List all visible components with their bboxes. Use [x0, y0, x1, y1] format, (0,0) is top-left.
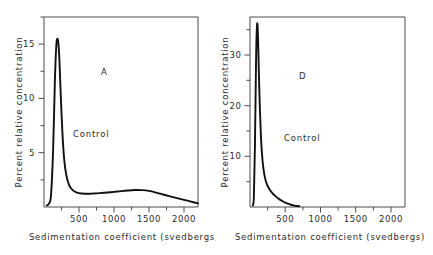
- y-axis-title-a: Percent relative concentration: [14, 37, 24, 188]
- figure-container: 5 10 15 500 1000 1500 2000 A: [0, 0, 433, 255]
- y-tick-label: 5: [29, 148, 35, 158]
- chart-panel-d: 10 20 30 500 1000 1500 2000 D: [217, 0, 433, 255]
- y-axis-title-d: Percent relative concentration: [220, 37, 230, 188]
- y-tick-label: 20: [229, 101, 241, 111]
- chart-panel-a: 5 10 15 500 1000 1500 2000 A: [0, 0, 216, 255]
- y-axis-ticks-d: [245, 30, 251, 182]
- x-tick-label: 1500: [137, 214, 161, 224]
- x-axis-title-a: Sedimentation coefficient (svedbergs): [29, 232, 216, 242]
- data-curve-control-a: [47, 39, 198, 206]
- plot-frame-d: [250, 17, 405, 207]
- x-tick-label: 500: [276, 214, 294, 224]
- panel-letter-a: A: [101, 67, 107, 77]
- x-axis-ticks-d: [268, 207, 391, 213]
- y-tick-label: 10: [23, 93, 35, 103]
- y-axis-ticks-a: [39, 17, 45, 180]
- x-tick-label: 500: [70, 214, 88, 224]
- x-tick-label: 1500: [344, 214, 368, 224]
- series-label-control-a: Control: [73, 129, 109, 139]
- series-label-control-d: Control: [284, 133, 320, 143]
- x-axis-ticks-a: [62, 207, 185, 213]
- x-tick-label: 2000: [379, 214, 403, 224]
- x-axis-title-d: Sedimentation coefficient (svedbergs): [235, 232, 425, 242]
- y-tick-label: 10: [229, 151, 241, 161]
- panel-letter-d: D: [299, 71, 306, 81]
- y-tick-label: 30: [229, 50, 241, 60]
- x-tick-label: 1000: [102, 214, 126, 224]
- y-tick-label: 15: [23, 39, 35, 49]
- data-curve-control-d: [253, 23, 300, 206]
- x-tick-label: 2000: [172, 214, 196, 224]
- x-tick-label: 1000: [308, 214, 332, 224]
